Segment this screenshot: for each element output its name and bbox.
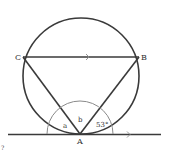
label-c: C — [15, 53, 21, 62]
chord-ba — [80, 57, 139, 134]
angle-label-b: b — [78, 116, 83, 124]
geometry-diagram: C B A a b 53° ? — [0, 0, 169, 155]
chord-ca — [23, 57, 80, 134]
label-a-point: A — [76, 137, 83, 146]
angle-label-a: a — [63, 122, 67, 130]
stray-mark: ? — [1, 144, 4, 151]
angle-label-53: 53° — [96, 121, 108, 129]
label-b: B — [141, 53, 147, 62]
